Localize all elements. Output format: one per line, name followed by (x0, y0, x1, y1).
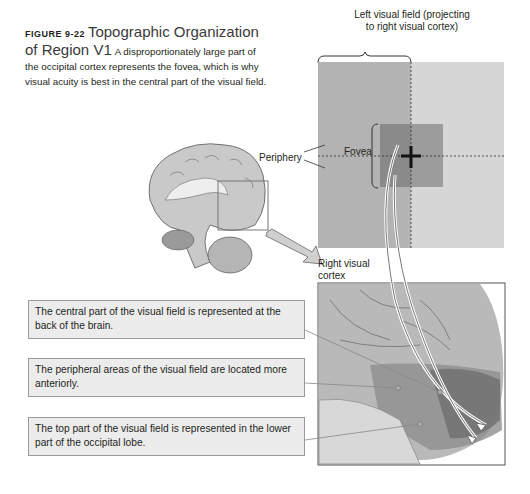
right-visual-cortex-label-line2: cortex (318, 270, 370, 282)
callout-peripheral-field: The peripheral areas of the visual field… (28, 358, 305, 397)
right-visual-cortex-label-line1: Right visual (318, 258, 370, 270)
fovea-label: Fovea (344, 146, 372, 158)
zoom-arrow (266, 229, 322, 264)
callout-central-field: The central part of the visual field is … (28, 300, 305, 339)
right-visual-cortex-label: Right visual cortex (318, 258, 370, 282)
right-visual-cortex-image (318, 283, 505, 465)
callout-top-field: The top part of the visual field is repr… (28, 417, 305, 456)
left-field-brace (318, 52, 411, 63)
sagittal-brain (149, 144, 268, 273)
cerebellum (208, 237, 252, 273)
periphery-label: Periphery (259, 152, 302, 164)
